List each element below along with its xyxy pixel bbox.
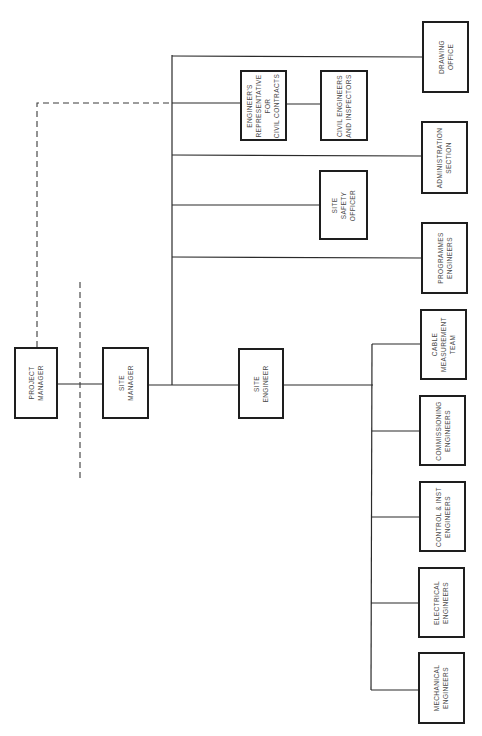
org-chart: PROJECT MANAGER SITE MANAGER SITE ENGINE… <box>0 0 482 736</box>
node-label: DRAWING OFFICE <box>436 40 454 74</box>
node-drawing-office: DRAWING OFFICE <box>422 21 469 93</box>
node-civil-engineers: CIVIL ENGINEERS AND INSPECTORS <box>320 70 368 141</box>
node-commissioning-engineers: COMMISSIONING ENGINEERS <box>419 395 466 466</box>
node-site-engineer: SITE ENGINEER <box>238 348 284 419</box>
node-programmes-engineers: PROGRAMMES ENGINEERS <box>421 222 468 294</box>
edge-administration <box>172 155 421 156</box>
node-site-manager: SITE MANAGER <box>102 347 149 419</box>
node-label: ADMINISTRATION SECTION <box>436 127 454 188</box>
node-mechanical-engineers: MECHANICAL ENGINEERS <box>418 652 465 724</box>
node-control-inst-engineers: CONTROL & INST ENGINEERS <box>419 481 466 552</box>
node-electrical-engineers: ELECTRICAL ENGINEERS <box>418 567 465 638</box>
node-label: CONTROL & INST ENGINEERS <box>434 487 452 547</box>
node-label: PROJECT MANAGER <box>27 365 45 401</box>
dashed-edge-pm-engineers-rep <box>37 103 172 347</box>
node-engineers-representative: ENGINEER'S REPRESENTATIVE FOR CIVIL CONT… <box>240 70 287 141</box>
node-cable-measurement-team: CABLE MEASUREMENT TEAM <box>420 309 467 380</box>
node-project-manager: PROJECT MANAGER <box>14 347 58 419</box>
node-label: CABLE MEASUREMENT TEAM <box>430 317 457 372</box>
node-label: SITE SAFETY OFFICER <box>330 189 357 220</box>
node-label: ELECTRICAL ENGINEERS <box>433 580 451 624</box>
site-engineer-trunk <box>371 344 372 690</box>
node-label: SITE MANAGER <box>116 365 134 401</box>
node-label: CIVIL ENGINEERS AND INSPECTORS <box>335 74 353 137</box>
node-label: SITE ENGINEER <box>252 365 270 402</box>
node-label: ENGINEER'S REPRESENTATIVE FOR CIVIL CONT… <box>246 73 282 137</box>
node-site-safety-officer: SITE SAFETY OFFICER <box>319 170 368 240</box>
node-administration-section: ADMINISTRATION SECTION <box>421 121 468 194</box>
edge-programmes <box>172 257 421 258</box>
edge-drawing-office <box>172 56 422 57</box>
node-label: MECHANICAL ENGINEERS <box>433 665 451 712</box>
node-label: PROGRAMMES ENGINEERS <box>436 232 454 284</box>
node-label: COMMISSIONING ENGINEERS <box>434 401 452 460</box>
